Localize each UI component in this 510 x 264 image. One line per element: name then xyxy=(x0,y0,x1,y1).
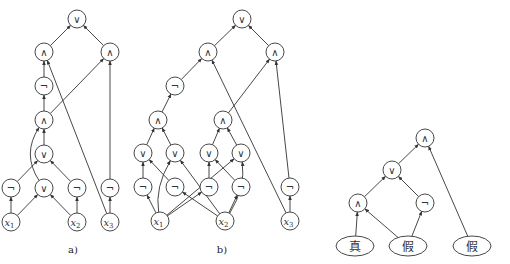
edge-arrow xyxy=(412,211,422,236)
node-b-x3: x3 xyxy=(281,212,299,230)
svg-text:¬: ¬ xyxy=(73,183,81,194)
node-b-not-top: ¬ xyxy=(166,77,184,95)
edge-arrow xyxy=(50,25,70,45)
node-a-or-mid: ∨ xyxy=(35,145,53,163)
svg-text:∧: ∧ xyxy=(354,198,361,209)
node-b-or-1: ∨ xyxy=(134,144,152,162)
node-c-or: ∨ xyxy=(383,161,401,179)
svg-text:真: 真 xyxy=(349,240,361,254)
svg-text:¬: ¬ xyxy=(171,182,179,193)
node-b-and-r: ∧ xyxy=(266,43,284,61)
svg-text:¬: ¬ xyxy=(40,81,48,92)
edge-arrow xyxy=(162,128,171,145)
edge-arrow xyxy=(229,195,237,213)
edge-arrow xyxy=(181,58,201,79)
svg-text:∧: ∧ xyxy=(40,115,47,126)
svg-text:¬: ¬ xyxy=(171,81,179,92)
svg-text:∨: ∨ xyxy=(205,148,212,159)
edge-arrow xyxy=(17,194,37,215)
node-b-or-4: ∨ xyxy=(232,144,250,162)
svg-text:∨: ∨ xyxy=(388,165,395,176)
edge-arrow xyxy=(398,176,418,196)
node-a-not-1: ¬ xyxy=(2,179,20,197)
svg-text:∧: ∧ xyxy=(271,47,278,58)
svg-text:¬: ¬ xyxy=(286,182,294,193)
node-b-not-4: ¬ xyxy=(232,178,250,196)
node-b-not-2: ¬ xyxy=(166,178,184,196)
svg-text:¬: ¬ xyxy=(106,183,114,194)
edge-arrow xyxy=(162,94,171,112)
svg-text:∧: ∧ xyxy=(154,115,161,126)
edge-arrow xyxy=(228,59,269,113)
edge-arrow xyxy=(356,212,358,236)
node-b-x1: x1 xyxy=(151,212,169,230)
svg-text:∧: ∧ xyxy=(219,115,226,126)
svg-text:∧: ∧ xyxy=(106,47,113,58)
node-c-and-top: ∧ xyxy=(416,129,434,147)
svg-text:¬: ¬ xyxy=(205,182,213,193)
svg-text:∧: ∧ xyxy=(421,133,428,144)
edge-arrow xyxy=(50,58,103,113)
svg-text:∨: ∨ xyxy=(237,148,244,159)
svg-text:∧: ∧ xyxy=(204,47,211,58)
edge-arrow xyxy=(248,25,268,45)
caption-b: b) xyxy=(217,244,227,255)
node-b-not-3: ¬ xyxy=(200,178,218,196)
edge-arrow xyxy=(398,144,418,163)
svg-text:假: 假 xyxy=(466,240,478,254)
edge-arrow xyxy=(147,195,156,213)
edge-arrow xyxy=(276,61,289,178)
svg-text:¬: ¬ xyxy=(421,198,429,209)
svg-text:假: 假 xyxy=(402,240,414,254)
edge-arrow xyxy=(83,25,103,45)
svg-text:¬: ¬ xyxy=(139,182,147,193)
node-b-and-l: ∧ xyxy=(199,43,217,61)
edge-arrow xyxy=(17,160,37,181)
node-b-or-2: ∨ xyxy=(166,144,184,162)
node-c-not: ¬ xyxy=(416,194,434,212)
node-a-not-mid: ¬ xyxy=(35,77,53,95)
svg-text:∨: ∨ xyxy=(238,14,245,25)
svg-text:¬: ¬ xyxy=(7,183,15,194)
svg-text:∨: ∨ xyxy=(40,149,47,160)
node-b-x2: x2 xyxy=(216,212,234,230)
captions-layer: a)b) xyxy=(68,244,227,255)
edge-arrow xyxy=(429,146,468,236)
circuit-diagrams: ∨∧∧¬∧∨¬∨¬¬x1x2x3∨∧∧¬∧∧∨∨∨∨¬¬¬¬¬x1x2x3∧∨∧… xyxy=(0,0,510,264)
node-b-or-3: ∨ xyxy=(200,144,218,162)
edge-arrow xyxy=(214,25,235,45)
node-c-true: 真 xyxy=(336,236,374,256)
svg-text:¬: ¬ xyxy=(237,182,245,193)
edge-arrow xyxy=(50,194,70,215)
node-c-false2: 假 xyxy=(453,236,491,256)
caption-a: a) xyxy=(68,244,78,255)
node-a-or-low: ∨ xyxy=(35,179,53,197)
edge-arrow xyxy=(227,128,236,145)
node-a-not-3: ¬ xyxy=(101,179,119,197)
node-b-not-1: ¬ xyxy=(134,178,152,196)
svg-text:∨: ∨ xyxy=(40,183,47,194)
svg-text:∨: ∨ xyxy=(139,148,146,159)
edge-arrow xyxy=(50,160,70,181)
svg-text:∨: ∨ xyxy=(73,14,80,25)
edge-arrow xyxy=(215,160,235,181)
node-a-and-r: ∧ xyxy=(101,43,119,61)
node-a-x2: x2 xyxy=(68,213,86,231)
edges-layer xyxy=(11,25,468,237)
edge-arrow xyxy=(147,128,155,145)
node-b-and-1: ∧ xyxy=(149,111,167,129)
node-b-not-5: ¬ xyxy=(281,178,299,196)
edge-arrow xyxy=(213,128,220,144)
node-a-not-2: ¬ xyxy=(68,179,86,197)
node-b-and-2: ∧ xyxy=(214,111,232,129)
svg-text:∧: ∧ xyxy=(40,47,47,58)
node-a-x1: x1 xyxy=(2,213,20,231)
node-a-and-mid: ∧ xyxy=(35,111,53,129)
edge-arrow xyxy=(365,209,398,238)
node-c-false1: 假 xyxy=(389,236,427,256)
node-a-and-l: ∧ xyxy=(35,43,53,61)
edge-arrow xyxy=(364,176,385,196)
node-b-or-top: ∨ xyxy=(233,10,251,28)
node-a-or-top: ∨ xyxy=(68,10,86,28)
node-a-x3: x3 xyxy=(101,213,119,231)
